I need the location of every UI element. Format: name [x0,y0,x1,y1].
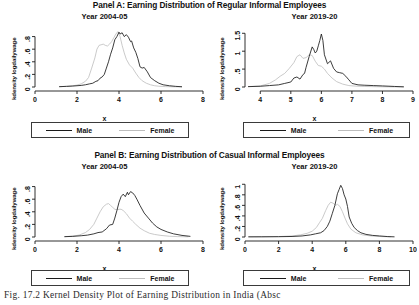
svg-text:.8: .8 [24,36,31,42]
plot-area: 0.511.5456789 [212,23,417,101]
svg-text:0: 0 [33,96,37,103]
svg-text:.8: .8 [234,194,241,200]
svg-text:1: 1 [234,52,241,56]
svg-text:0: 0 [234,87,241,91]
svg-text:0: 0 [24,87,31,91]
legend-item-female: Female [338,127,393,134]
female-line-swatch-icon [338,130,364,131]
x-axis-label: x [212,115,417,122]
panel-a: Panel A: Earning Distribution of Regular… [0,0,419,148]
svg-text:1.5: 1.5 [234,31,241,41]
svg-text:8: 8 [201,96,205,103]
svg-text:.5: .5 [234,68,241,74]
svg-text:0: 0 [243,246,247,253]
legend-item-male: Male [46,127,93,134]
legend-label-male: Male [291,127,307,134]
svg-text:6: 6 [344,246,348,253]
subplot-title: Year 2019-20 [212,12,417,21]
legend-label-male: Male [291,275,307,282]
female-line-swatch-icon [338,278,364,279]
svg-text:2: 2 [277,246,281,253]
plot-area: 0.2.4.6.802468 [2,173,207,251]
figure-caption: Fig. 17.2 Kernel Density Plot of Earning… [0,290,419,305]
svg-text:6: 6 [319,96,323,103]
legend-item-male: Male [46,275,93,282]
legend-label-female: Female [369,275,393,282]
male-line-swatch-icon [46,278,72,279]
plot-area: 0.2.4.6.810246810 [212,173,417,251]
legend-label-male: Male [77,275,93,282]
male-line-swatch-icon [260,278,286,279]
svg-text:4: 4 [258,96,262,103]
svg-text:6: 6 [159,96,163,103]
legend-panel-b-right: Male Female [243,270,410,286]
legend-item-male: Male [260,127,307,134]
svg-text:0: 0 [234,237,241,241]
svg-text:4: 4 [117,96,121,103]
legend-item-female: Female [119,127,174,134]
svg-text:.4: .4 [234,215,241,221]
svg-text:0: 0 [24,237,31,241]
female-line-swatch-icon [119,130,145,131]
male-line-swatch-icon [260,130,286,131]
panel-b: Panel B: Earning Distribution of Casual … [0,148,419,288]
svg-text:2: 2 [75,96,79,103]
svg-text:.6: .6 [24,199,31,205]
subplot-panel-b-2004-05: Year 2004-05 kdensity logdailywage 0.2.4… [2,162,207,282]
svg-text:0: 0 [33,246,37,253]
svg-text:.8: .8 [24,186,31,192]
legend-panel-a-left: Male Female [31,122,189,138]
svg-text:.4: .4 [24,211,31,217]
svg-text:9: 9 [411,96,415,103]
legend-item-female: Female [338,275,393,282]
female-line-swatch-icon [119,278,145,279]
svg-text:10: 10 [409,246,417,253]
svg-text:.2: .2 [234,226,241,232]
plot-area: 0.2.4.6.802468 [2,23,207,101]
svg-text:.4: .4 [24,61,31,67]
kernel-density-figure: Panel A: Earning Distribution of Regular… [0,0,419,305]
panel-a-title: Panel A: Earning Distribution of Regular… [0,0,419,10]
subplot-title: Year 2004-05 [2,162,207,171]
legend-label-female: Female [150,127,174,134]
legend-item-female: Female [119,275,174,282]
panel-b-title: Panel B: Earning Distribution of Casual … [0,150,419,160]
svg-text:4: 4 [310,246,314,253]
subplot-panel-a-2019-20: Year 2019-20 kdensity logdailywage 0.511… [212,12,417,132]
svg-text:7: 7 [350,96,354,103]
svg-text:5: 5 [289,96,293,103]
svg-text:4: 4 [117,246,121,253]
svg-text:8: 8 [377,246,381,253]
svg-text:2: 2 [75,246,79,253]
subplot-panel-a-2004-05: Year 2004-05 kdensity logdailywage 0.2.4… [2,12,207,132]
svg-text:.6: .6 [24,49,31,55]
svg-text:.2: .2 [24,74,31,80]
subplot-title: Year 2019-20 [212,162,417,171]
svg-text:.6: .6 [234,205,241,211]
legend-panel-b-left: Male Female [31,270,189,286]
legend-label-female: Female [150,275,174,282]
svg-text:.2: .2 [24,224,31,230]
male-line-swatch-icon [46,130,72,131]
svg-text:1: 1 [234,185,241,189]
subplot-panel-b-2019-20: Year 2019-20 kdensity logdailywage 0.2.4… [212,162,417,282]
legend-item-male: Male [260,275,307,282]
subplot-title: Year 2004-05 [2,12,207,21]
svg-text:6: 6 [159,246,163,253]
x-axis-label: x [2,115,207,122]
svg-text:8: 8 [201,246,205,253]
svg-text:8: 8 [381,96,385,103]
legend-label-male: Male [77,127,93,134]
legend-panel-a-right: Male Female [243,122,410,138]
legend-label-female: Female [369,127,393,134]
